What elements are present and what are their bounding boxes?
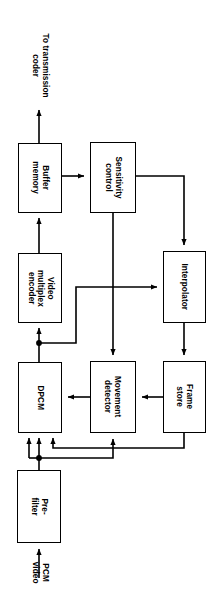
node-interpolator[interactable]: Interpolator [163, 251, 206, 323]
block-diagram: Buffermemory Sensitivitycontrol Videomul… [0, 0, 224, 599]
node-pre-filter-label: Pre-filter [29, 497, 48, 515]
node-sensitivity-control[interactable]: Sensitivitycontrol [90, 142, 136, 213]
edge-framestore-to-dpcm [53, 433, 184, 448]
label-input: PCMvideo [18, 552, 62, 594]
node-pre-filter[interactable]: Pre-filter [17, 470, 61, 543]
node-frame-store[interactable]: Framestore [163, 361, 206, 433]
node-interpolator-label: Interpolator [180, 264, 190, 311]
node-sensitivity-control-label: Sensitivitycontrol [103, 156, 122, 198]
node-dpcm[interactable]: DPCM [18, 362, 62, 433]
junction-dot-prefilter-tap [36, 455, 42, 461]
node-buffer-memory-label: Buffermemory [30, 162, 49, 194]
node-frame-store-label: Framestore [175, 384, 194, 409]
node-buffer-memory[interactable]: Buffermemory [18, 143, 62, 213]
node-video-multiplex-encoder-label: Videomultiplexencoder [26, 270, 55, 307]
node-dpcm-label: DPCM [35, 385, 45, 410]
label-input-text: PCMvideo [30, 562, 49, 584]
node-movement-detector-label: Movementdetector [103, 376, 122, 417]
edge-sensitivity-to-interpolator [136, 176, 184, 245]
node-movement-detector[interactable]: Movementdetector [90, 361, 136, 433]
junction-dot-dpcm-tap [36, 340, 42, 346]
label-output-text: To transmissioncoder [30, 34, 49, 98]
label-output: To transmissioncoder [18, 24, 62, 108]
node-video-multiplex-encoder[interactable]: Videomultiplexencoder [18, 253, 62, 323]
